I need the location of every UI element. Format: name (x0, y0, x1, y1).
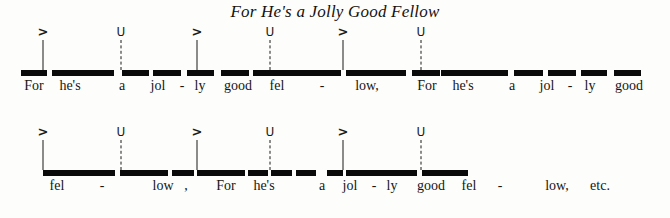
lyric-syllable: - (320, 78, 325, 94)
lyric-syllable: , (184, 178, 188, 194)
lyric-syllable: jol (151, 78, 166, 94)
barline-solid (43, 140, 44, 170)
duration-bar (441, 70, 508, 76)
accent-mark: > (192, 126, 203, 138)
barline-solid (197, 40, 198, 70)
lyric-syllable: ly (195, 78, 206, 94)
accent-mark: > (338, 26, 349, 38)
duration-bar (52, 70, 114, 76)
lyric-syllable: - (498, 178, 503, 194)
lyric-syllable: he's (59, 78, 80, 94)
duration-bar (253, 70, 341, 76)
barline-dashed (121, 140, 122, 170)
duration-bar (422, 170, 468, 176)
duration-bar (21, 70, 47, 76)
lyric-syllable: good (224, 78, 252, 94)
lyric-syllable: he's (253, 178, 274, 194)
figure-title: For He's a Jolly Good Fellow (0, 2, 670, 22)
lyric-syllable: he's (452, 78, 473, 94)
duration-bar (296, 170, 316, 176)
lyric-syllable: low, (545, 178, 569, 194)
unstressed-mark: U (266, 126, 275, 138)
system-2: >U>U>Ufel-low,Forhe'sajol-lygoodfel-low,… (0, 126, 670, 196)
accent-mark: > (338, 126, 349, 138)
accent-mark: > (38, 26, 49, 38)
system-1: >U>U>UForhe'sajol-lygoodfel-low,Forhe'sa… (0, 26, 670, 96)
duration-bar (187, 70, 214, 76)
lyric-syllable: etc. (590, 178, 610, 194)
lyric-syllable: jol (343, 178, 358, 194)
duration-bar (122, 70, 149, 76)
barline-dashed (121, 40, 122, 70)
barline-dashed (421, 40, 422, 70)
duration-bar (153, 70, 181, 76)
lyric-syllable: good (417, 178, 445, 194)
lyric-syllable: a (119, 78, 125, 94)
barline-solid (343, 140, 344, 170)
lyric-syllable: - (180, 78, 185, 94)
accent-mark: > (192, 26, 203, 38)
lyric-syllable: jol (540, 78, 555, 94)
duration-bar (412, 70, 440, 76)
lyric-syllable: low, (355, 78, 379, 94)
lyric-syllable: fel (270, 78, 285, 94)
duration-bar (327, 170, 343, 176)
unstressed-mark: U (417, 126, 426, 138)
lyric-syllable: - (372, 178, 377, 194)
lyric-syllable: ly (387, 178, 398, 194)
lyric-syllable: a (319, 178, 325, 194)
duration-bar (172, 170, 194, 176)
barline-solid (43, 40, 44, 70)
lyric-syllable: fel (462, 178, 477, 194)
duration-bar (197, 170, 245, 176)
accent-mark: > (38, 126, 49, 138)
barline-solid (343, 40, 344, 70)
barline-dashed (421, 140, 422, 170)
barline-dashed (270, 40, 271, 70)
duration-bar (248, 170, 268, 176)
lyric-syllable: a (509, 78, 515, 94)
duration-bar (581, 70, 607, 76)
barline-solid (197, 140, 198, 170)
duration-bar (614, 70, 641, 76)
lyric-syllable: - (568, 78, 573, 94)
unstressed-mark: U (117, 126, 126, 138)
unstressed-mark: U (417, 26, 426, 38)
duration-bar (514, 70, 543, 76)
lyric-syllable: For (417, 78, 436, 94)
barline-dashed (270, 140, 271, 170)
lyric-syllable: ly (585, 78, 596, 94)
lyric-syllable: - (100, 178, 105, 194)
unstressed-mark: U (117, 26, 126, 38)
duration-bar (43, 170, 115, 176)
duration-bar (548, 70, 576, 76)
duration-bar (346, 170, 417, 176)
lyric-syllable: For (216, 178, 235, 194)
lyric-syllable: low (153, 178, 174, 194)
unstressed-mark: U (266, 26, 275, 38)
rhythm-notation-figure: For He's a Jolly Good Fellow >U>U>UForhe… (0, 0, 670, 218)
duration-bar (271, 170, 292, 176)
lyric-syllable: good (615, 78, 643, 94)
duration-bar (120, 170, 168, 176)
lyric-syllable: For (24, 78, 43, 94)
duration-bar (221, 70, 249, 76)
lyric-syllable: fel (50, 178, 65, 194)
duration-bar (346, 70, 406, 76)
